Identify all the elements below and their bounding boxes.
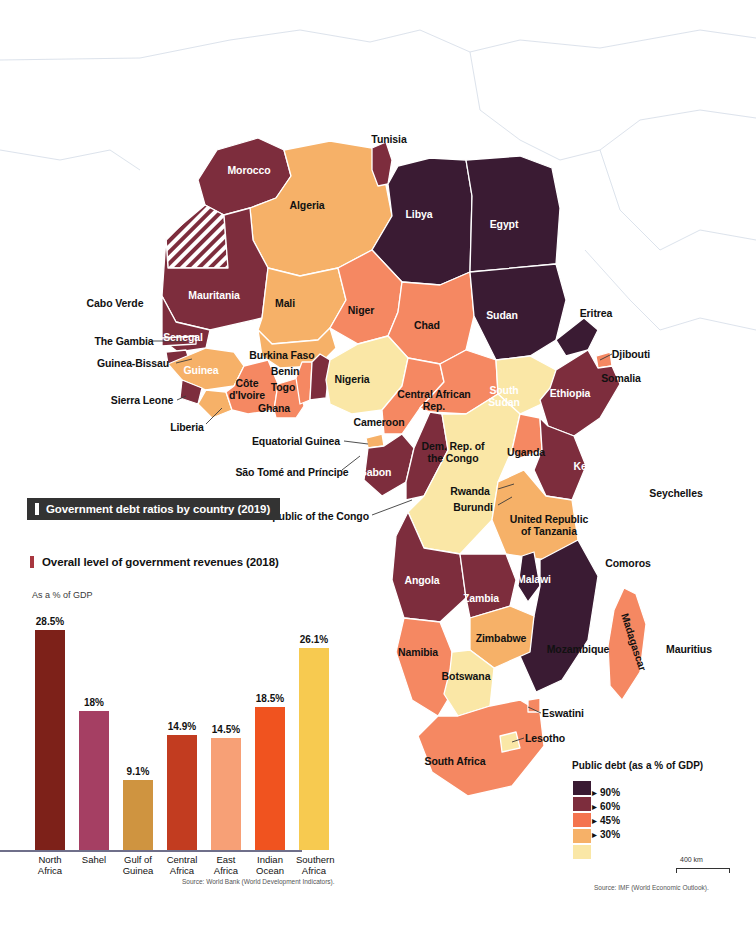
bar-value-label: 14.5%	[212, 724, 240, 735]
legend-arrow-icon: ▸	[592, 816, 597, 826]
revenues-chart-title: Overall level of government revenues (20…	[30, 556, 279, 568]
x-axis-label: NorthAfrica	[32, 855, 68, 876]
bar-column[interactable]: 26.1%	[296, 600, 332, 850]
chart-axis-note: As a % of GDP	[32, 590, 93, 600]
revenues-source: Source: World Bank (World Development In…	[182, 878, 335, 885]
legend-break-label: 60%	[600, 801, 620, 812]
bar-value-label: 9.1%	[127, 766, 150, 777]
title-tick-icon	[30, 556, 34, 568]
chart-x-axis-labels: NorthAfricaSahelGulf ofGuineaCentralAfri…	[32, 855, 332, 876]
debt-map-title: Government debt ratios by country (2019)	[27, 498, 280, 520]
legend-swatch	[572, 844, 592, 860]
legend-break-row: ▸90%	[592, 787, 620, 798]
x-axis-label: IndianOcean	[252, 855, 288, 876]
bar[interactable]	[299, 648, 329, 850]
revenues-bar-chart[interactable]: 28.5%18%9.1%14.9%14.5%18.5%26.1%	[32, 600, 332, 850]
x-axis-label: EastAfrica	[208, 855, 244, 876]
x-axis-label: Sahel	[76, 855, 112, 876]
bar-value-label: 18.5%	[256, 693, 284, 704]
title-tick-icon	[35, 503, 39, 515]
legend-break-label: 30%	[600, 829, 620, 840]
legend-break-label: 45%	[600, 815, 620, 826]
x-axis-label: CentralAfrica	[164, 855, 200, 876]
x-axis-label: SouthernAfrica	[296, 855, 332, 876]
legend-title: Public debt (as a % of GDP)	[572, 760, 703, 771]
legend-break-row: ▸60%	[592, 801, 620, 812]
bar-column[interactable]: 18.5%	[252, 600, 288, 850]
scale-bar	[676, 868, 730, 873]
revenues-chart-title-text: Overall level of government revenues (20…	[42, 556, 279, 568]
infographic-root: TunisiaMoroccoAlgeriaLibyaEgyptMauritani…	[0, 0, 756, 947]
x-axis-label: Gulf ofGuinea	[120, 855, 156, 876]
bar-column[interactable]: 18%	[76, 600, 112, 850]
legend-arrow-icon: ▸	[592, 830, 597, 840]
legend-break-row: ▸30%	[592, 829, 620, 840]
legend-swatch	[572, 812, 592, 828]
map-legend: Public debt (as a % of GDP) ▸90%▸60%▸45%…	[572, 760, 703, 860]
bar-value-label: 14.9%	[168, 721, 196, 732]
legend-arrow-icon: ▸	[592, 788, 597, 798]
bar-column[interactable]: 9.1%	[120, 600, 156, 850]
legend-swatches: ▸90%▸60%▸45%▸30%	[572, 780, 590, 860]
legend-swatch	[572, 796, 592, 812]
scale-bar-label: 400 km	[680, 856, 703, 863]
map-source: Source: IMF (World Economic Outlook).	[594, 884, 709, 891]
bar[interactable]	[211, 738, 241, 850]
legend-break-label: 90%	[600, 787, 620, 798]
bar-column[interactable]: 28.5%	[32, 600, 68, 850]
bar-value-label: 28.5%	[36, 616, 64, 627]
chart-baseline	[0, 850, 302, 852]
bar-group: 28.5%18%9.1%14.9%14.5%18.5%26.1%	[32, 600, 332, 850]
legend-swatch	[572, 828, 592, 844]
bar-column[interactable]: 14.5%	[208, 600, 244, 850]
debt-map-title-text: Government debt ratios by country (2019)	[46, 503, 270, 515]
legend-break-row: ▸45%	[592, 815, 620, 826]
bar[interactable]	[167, 735, 197, 850]
bar-value-label: 18%	[84, 697, 104, 708]
legend-arrow-icon: ▸	[592, 802, 597, 812]
bar[interactable]	[255, 707, 285, 850]
scale-bar-caps	[676, 869, 730, 873]
legend-swatch	[572, 780, 592, 796]
bar[interactable]	[123, 780, 153, 850]
bar-column[interactable]: 14.9%	[164, 600, 200, 850]
bar-value-label: 26.1%	[300, 634, 328, 645]
bar[interactable]	[35, 630, 65, 850]
bar[interactable]	[79, 711, 109, 850]
